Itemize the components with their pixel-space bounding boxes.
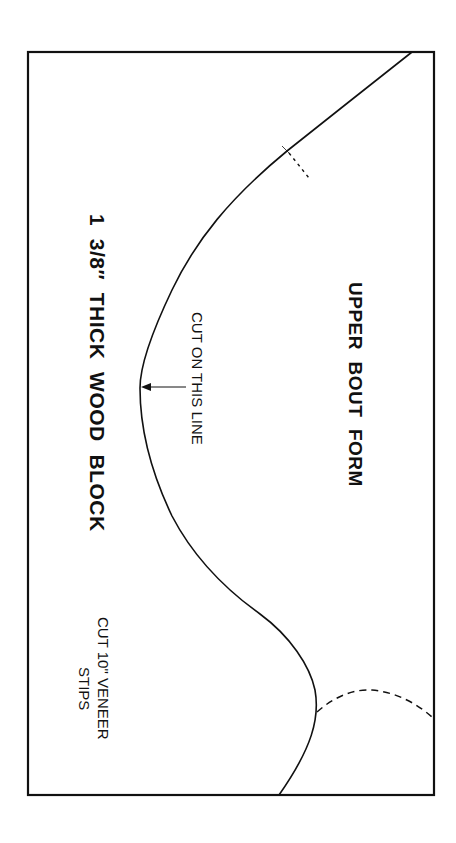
label-wood-block-thickness: 1 3/8″ THICK WOOD BLOCK (87, 214, 108, 532)
title-upper-bout-form: UPPER BOUT FORM (346, 282, 365, 487)
dashed-arc (317, 690, 433, 718)
upper-bout-form-diagram (0, 0, 456, 843)
label-veneer-strips-line2: STIPS (77, 667, 92, 710)
label-veneer-strips-line1: CUT 10" VENEER (96, 617, 111, 740)
label-cut-on-this-line: CUT ON THIS LINE (190, 312, 205, 445)
reference-dash-line (289, 153, 309, 178)
arrow-head-icon (141, 383, 151, 391)
cut-line-curve (140, 52, 412, 795)
